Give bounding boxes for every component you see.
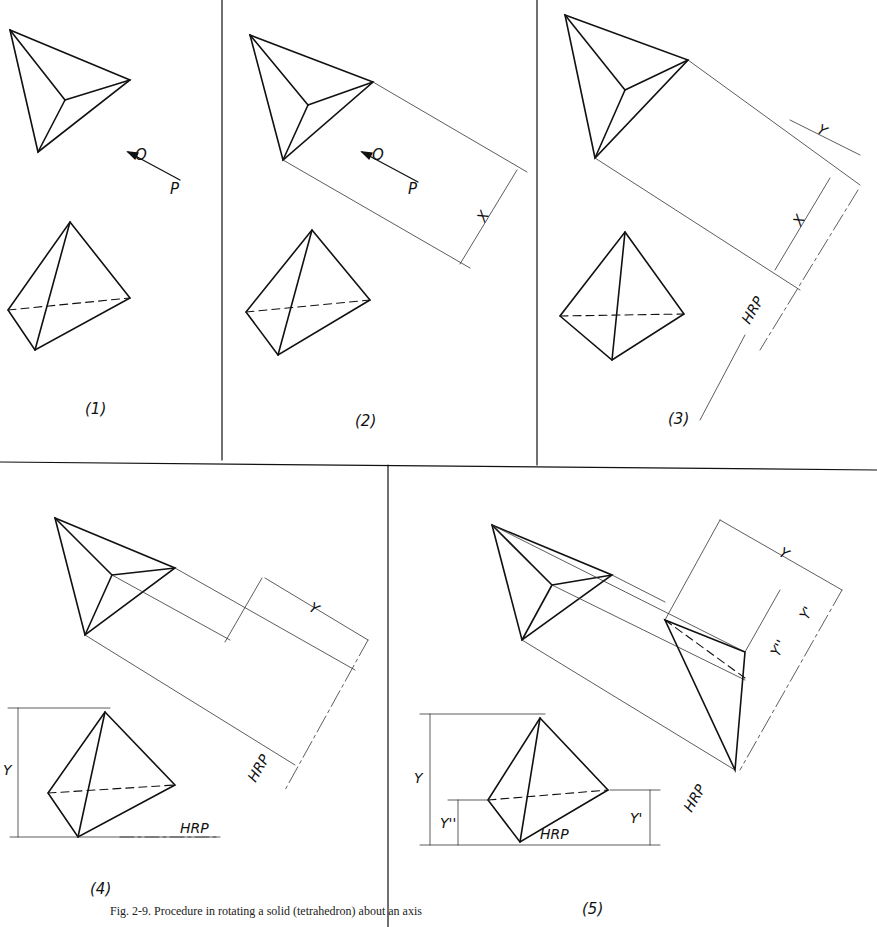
panel-5-front-view (488, 718, 608, 842)
dimension-y-prime-5a: Y' (800, 605, 812, 621)
dimension-y-5a: Y (780, 545, 789, 561)
panel-4-projectors (85, 568, 368, 790)
reference-plane-hrp-3: HRP (738, 302, 767, 318)
reference-plane-hrp-5a: HRP (540, 826, 569, 842)
point-o-2: O (372, 146, 384, 164)
panel-label-1: (1) (85, 400, 106, 418)
panel-3-front-view (560, 232, 684, 360)
panel-label-3: (3) (668, 410, 689, 428)
panel-3-projectors (595, 60, 860, 420)
technical-drawing (0, 0, 877, 927)
dimension-x-2: X (478, 208, 488, 224)
point-o-1: O (135, 146, 147, 164)
panel-label-2: (2) (355, 412, 376, 430)
point-p-1: P (170, 180, 179, 198)
dimension-y-double-prime-5a: Y'' (770, 640, 786, 656)
dimension-y-4b: Y (3, 762, 12, 778)
reference-plane-hrp-4b: HRP (244, 760, 273, 776)
panel-5-auxiliary-view (665, 620, 745, 770)
panel-4-front-view (48, 712, 175, 837)
dimension-y-double-prime-5b: Y'' (440, 815, 456, 831)
divider-h (0, 462, 877, 470)
panel-3-top-view (565, 15, 688, 158)
panel-2-front-view (246, 230, 370, 355)
panel-label-5: (5) (582, 900, 603, 918)
point-p-2: P (408, 180, 417, 198)
panel-1-front-view (8, 222, 130, 350)
panel-5-top-view (492, 525, 612, 640)
panel-5-projectors (492, 520, 842, 770)
panel-label-4: (4) (90, 880, 111, 898)
dimension-y-prime-5b: Y' (630, 810, 642, 826)
dimension-y-3: Y (818, 122, 827, 138)
dimension-x-3: X (794, 212, 804, 228)
dimension-y-5b: Y (414, 770, 423, 786)
panel-1-top-view (10, 30, 130, 152)
reference-plane-hrp-4a: HRP (180, 820, 209, 836)
dimension-y-4a: Y (310, 600, 319, 616)
figure-caption: Fig. 2-9. Procedure in rotating a solid … (110, 904, 422, 919)
panel-2-top-view (250, 35, 373, 160)
reference-plane-hrp-5b: HRP (680, 790, 709, 806)
panel-2-arrow (362, 152, 418, 182)
